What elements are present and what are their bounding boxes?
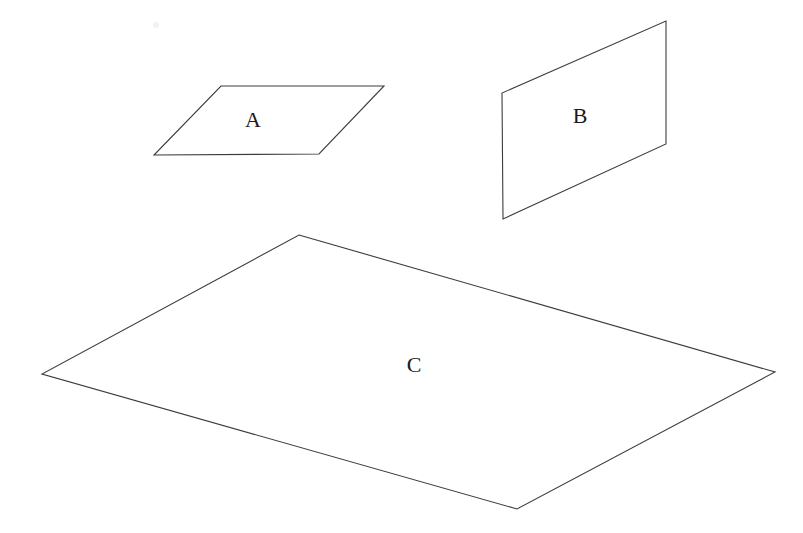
plane-b-label: B [573, 103, 588, 128]
plane-c-label: C [407, 352, 422, 377]
plane-a-label: A [245, 107, 261, 132]
faint-speck-artifact [153, 22, 159, 28]
figure-background [0, 0, 803, 533]
geometry-figure-canvas: A B C [0, 0, 803, 533]
